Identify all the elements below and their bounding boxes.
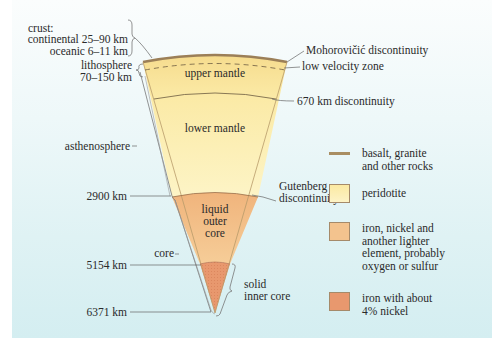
legend-item-inner-core: iron with about 4% nickel — [329, 292, 432, 317]
lithosphere-bracket — [136, 64, 143, 77]
inner-core-label-1: solid — [244, 278, 266, 291]
depth-5154-label: 5154 km — [86, 259, 127, 272]
legend-line-swatch — [329, 152, 350, 155]
asthenosphere-label: asthenosphere — [65, 140, 130, 153]
legend-swatch-peridotite — [329, 184, 350, 203]
depth-2900-label: 2900 km — [86, 190, 127, 203]
crust-oceanic-label: oceanic 6–11 km — [50, 45, 128, 58]
crust-bracket — [128, 20, 135, 56]
outer-core-label-1: liquid — [185, 203, 245, 216]
lithosphere-depth-label: 70–150 km — [80, 71, 132, 84]
legend-item-outer-core: iron, nickel and another lighter element… — [329, 222, 445, 272]
inner-core-region — [200, 262, 230, 313]
low-velocity-zone-label: low velocity zone — [302, 60, 384, 73]
core-label: core — [154, 247, 174, 260]
outer-core-label-3: core — [185, 227, 245, 240]
moho-label: Mohorovičić discontinuity — [306, 44, 428, 57]
lower-mantle-label: lower mantle — [165, 122, 265, 135]
outer-core-label-2: outer — [185, 215, 245, 228]
legend-item-crust-rocks: basalt, granite and other rocks — [329, 147, 433, 172]
depth-6371-label: 6371 km — [86, 306, 127, 319]
gutenberg-label-1: Gutenberg — [279, 180, 327, 193]
legend-swatch-outer-core — [329, 222, 350, 241]
inner-core-label-2: inner core — [244, 290, 290, 303]
legend-item-peridotite: peridotite — [329, 184, 406, 203]
upper-mantle-label: upper mantle — [165, 67, 265, 80]
lithosphere-label: lithosphere — [81, 59, 132, 72]
670km-discontinuity-label: 670 km discontinuity — [297, 95, 395, 108]
legend-swatch-inner-core — [329, 292, 350, 311]
crust-continental-label: continental 25–90 km — [28, 33, 128, 46]
